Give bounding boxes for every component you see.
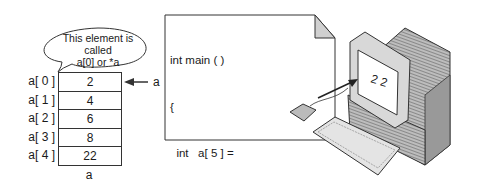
- mouse-cable: [310, 88, 348, 106]
- mouse: [290, 104, 316, 121]
- computer-icon: 2 2: [0, 0, 481, 194]
